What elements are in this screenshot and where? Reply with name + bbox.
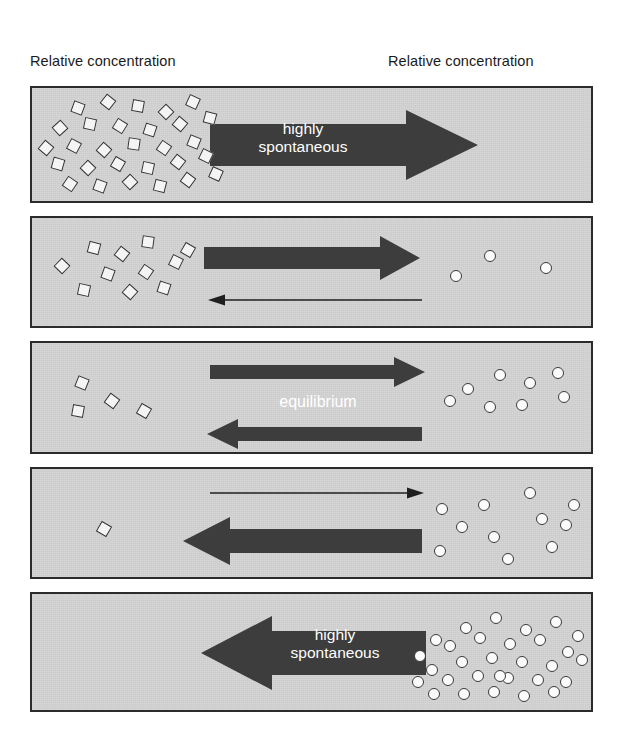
equilibrium-diagram: Relative concentration of reactant: Rela… xyxy=(0,0,625,739)
reactant-molecule xyxy=(185,94,201,110)
product-molecule xyxy=(414,650,426,662)
molecule-layer-panel-2 xyxy=(32,218,591,326)
reactant-molecule xyxy=(96,521,112,537)
product-molecule xyxy=(532,674,544,686)
product-molecule xyxy=(504,638,516,650)
reactant-molecule xyxy=(92,178,107,193)
reactant-molecule xyxy=(110,156,126,172)
reactant-molecule xyxy=(52,120,69,137)
product-molecule xyxy=(494,670,506,682)
reactant-molecule xyxy=(168,254,184,270)
reactant-molecule xyxy=(70,100,85,115)
reactant-molecule xyxy=(156,280,171,295)
reactant-molecule xyxy=(62,176,79,193)
reactant-molecule xyxy=(51,157,66,172)
panel-mostly-reverse xyxy=(30,467,593,579)
reactant-molecule xyxy=(77,283,91,297)
reactant-molecule xyxy=(208,166,224,182)
product-molecule xyxy=(572,630,584,642)
product-molecule xyxy=(546,541,558,553)
product-molecule xyxy=(436,503,448,515)
reactant-molecule xyxy=(142,122,157,137)
product-molecule xyxy=(484,250,496,262)
reactant-molecule xyxy=(122,284,139,301)
product-molecule xyxy=(456,521,468,533)
product-molecule xyxy=(444,640,456,652)
reactant-molecule xyxy=(153,179,168,194)
reactant-molecule xyxy=(87,241,102,256)
reactant-molecule xyxy=(104,393,121,410)
product-molecule xyxy=(550,616,562,628)
label-highly-spontaneous-panel-5: highly spontaneous xyxy=(260,626,410,663)
product-molecule xyxy=(560,676,572,688)
product-molecule xyxy=(520,624,532,636)
product-molecule xyxy=(558,391,570,403)
product-molecule xyxy=(412,676,424,688)
product-molecule xyxy=(548,686,560,698)
product-molecule xyxy=(568,499,580,511)
product-molecule xyxy=(560,519,572,531)
reactant-molecule xyxy=(127,137,141,151)
product-molecule xyxy=(430,634,442,646)
label-equilibrium: equilibrium xyxy=(208,393,428,411)
product-molecule xyxy=(458,688,470,700)
product-molecule xyxy=(484,401,496,413)
product-molecule xyxy=(456,656,468,668)
product-molecule xyxy=(552,367,564,379)
reactant-molecule xyxy=(38,140,55,157)
reactant-molecule xyxy=(112,118,129,135)
reactant-molecule xyxy=(71,404,85,418)
product-molecule xyxy=(460,622,472,634)
reactant-molecule xyxy=(83,117,97,131)
product-molecule xyxy=(536,513,548,525)
product-molecule xyxy=(516,399,528,411)
product-molecule xyxy=(546,660,558,672)
product-molecule xyxy=(434,545,446,557)
reactant-molecule xyxy=(74,375,90,391)
product-molecule xyxy=(486,652,498,664)
product-molecule xyxy=(524,487,536,499)
header-reactant-line1: Relative concentration xyxy=(30,51,235,72)
product-molecule xyxy=(534,634,546,646)
reactant-molecule xyxy=(100,94,117,111)
reactant-molecule xyxy=(170,154,187,171)
product-molecule xyxy=(474,632,486,644)
label-highly-spontaneous-panel-1: highly spontaneous xyxy=(228,120,378,157)
product-molecule xyxy=(518,690,530,702)
product-molecule xyxy=(472,670,484,682)
panel-highly-spontaneous-forward: highly spontaneous xyxy=(30,86,593,203)
reactant-molecule xyxy=(96,142,113,159)
reactant-molecule xyxy=(180,172,197,189)
product-molecule xyxy=(428,688,440,700)
product-molecule xyxy=(516,656,528,668)
product-molecule xyxy=(490,612,502,624)
product-molecule xyxy=(576,654,588,666)
reactant-molecule xyxy=(100,266,115,281)
panel-mostly-forward xyxy=(30,216,593,328)
reactant-molecule xyxy=(80,160,97,177)
reactant-molecule xyxy=(114,246,131,263)
product-molecule xyxy=(562,646,574,658)
reactant-molecule xyxy=(203,111,218,126)
reactant-molecule xyxy=(158,104,175,121)
reactant-molecule xyxy=(136,403,152,419)
reactant-molecule xyxy=(131,99,145,113)
reactant-molecule xyxy=(141,235,155,249)
product-molecule xyxy=(450,270,462,282)
reactant-molecule xyxy=(186,134,202,150)
reactant-molecule xyxy=(141,161,155,175)
product-molecule xyxy=(488,686,500,698)
product-molecule xyxy=(540,262,552,274)
product-molecule xyxy=(502,553,514,565)
product-molecule xyxy=(494,369,506,381)
reactant-molecule xyxy=(66,138,82,154)
reactant-molecule xyxy=(172,116,189,133)
reactant-molecule xyxy=(138,264,155,281)
product-molecule xyxy=(488,531,500,543)
product-molecule xyxy=(426,664,438,676)
reactant-molecule xyxy=(54,258,71,275)
product-molecule xyxy=(444,395,456,407)
product-molecule xyxy=(524,377,536,389)
panel-highly-spontaneous-reverse: highly spontaneous xyxy=(30,592,593,712)
panel-equilibrium: equilibrium xyxy=(30,341,593,454)
